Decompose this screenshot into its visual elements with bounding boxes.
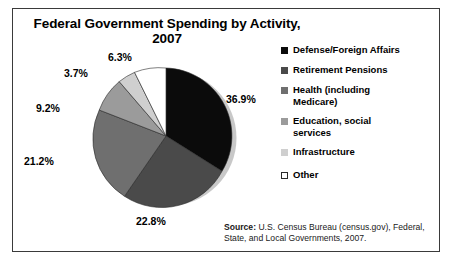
pie-label-defense: 36.9%: [226, 93, 256, 105]
pie-chart: 36.9% 22.8% 21.2% 9.2% 3.7% 6.3%: [90, 60, 242, 212]
source-note: Source: U.S. Census Bureau (census.gov),…: [224, 222, 429, 244]
legend-label-defense: Defense/Foreign Affairs: [293, 44, 400, 56]
pie-slices: [93, 68, 232, 208]
legend-label-retirement: Retirement Pensions: [293, 64, 388, 76]
legend-item-other[interactable]: Other: [281, 169, 431, 181]
legend-item-retirement[interactable]: Retirement Pensions: [281, 64, 431, 76]
pie-label-health: 21.2%: [24, 155, 54, 167]
pie-label-education: 9.2%: [36, 102, 60, 114]
legend-label-infrastructure: Infrastructure: [293, 146, 355, 158]
pie-label-other: 6.3%: [108, 51, 132, 63]
figure-container: Federal Government Spending by Activity,…: [0, 0, 457, 266]
legend-item-education[interactable]: Education, social services: [281, 115, 431, 138]
legend-label-education: Education, social services: [293, 115, 403, 138]
source-label: Source:: [224, 222, 256, 232]
legend-swatch-infrastructure-icon: [281, 149, 288, 156]
legend-label-health: Health (including Medicare): [293, 84, 403, 107]
legend-swatch-other-icon: [281, 172, 288, 179]
legend-label-other: Other: [293, 169, 318, 181]
chart-title: Federal Government Spending by Activity,…: [22, 16, 312, 46]
pie-label-retirement: 22.8%: [136, 215, 166, 227]
legend-swatch-defense-icon: [281, 47, 288, 54]
pie-svg: [90, 60, 242, 212]
legend-swatch-retirement-icon: [281, 67, 288, 74]
legend-item-defense[interactable]: Defense/Foreign Affairs: [281, 44, 431, 56]
chart-legend: Defense/Foreign Affairs Retirement Pensi…: [281, 44, 431, 188]
legend-item-health[interactable]: Health (including Medicare): [281, 84, 431, 107]
pie-label-infrastructure: 3.7%: [64, 67, 88, 79]
legend-swatch-education-icon: [281, 118, 288, 125]
legend-swatch-health-icon: [281, 87, 288, 94]
legend-item-infrastructure[interactable]: Infrastructure: [281, 146, 431, 158]
